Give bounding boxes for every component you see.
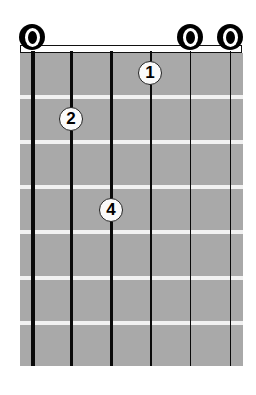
chord-diagram: 1 2 4: [0, 0, 256, 395]
finger-marker-4: 4: [99, 198, 123, 222]
nut: [20, 45, 242, 53]
fret-line-4: [20, 230, 243, 234]
open-string-marker-6: [217, 24, 243, 50]
string-2: [70, 51, 73, 366]
fretboard: [20, 53, 243, 366]
string-1: [31, 51, 35, 366]
finger-marker-2: 2: [59, 107, 83, 131]
fret-line-3: [20, 185, 243, 189]
string-4: [150, 51, 152, 366]
open-string-marker-5: [177, 24, 203, 50]
fret-line-2: [20, 140, 243, 144]
string-5: [190, 51, 192, 366]
fret-line-6: [20, 321, 243, 325]
finger-marker-1: 1: [138, 61, 162, 85]
fret-line-1: [20, 95, 243, 99]
open-string-marker-1: [19, 24, 45, 50]
string-6: [230, 51, 231, 366]
fret-line-5: [20, 276, 243, 280]
